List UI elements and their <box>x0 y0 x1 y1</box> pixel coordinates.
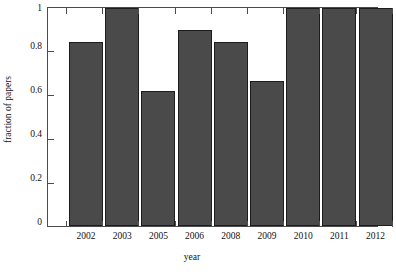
bar-2012 <box>359 8 393 226</box>
x-tick-mark-top-4 <box>211 8 212 14</box>
x-tick-mark-bottom-7 <box>319 221 320 227</box>
x-tick-label-2002: 2002 <box>66 231 106 242</box>
x-tick-mark-top-1 <box>102 8 103 14</box>
x-tick-label-2011: 2011 <box>319 231 359 242</box>
x-tick-mark-bottom-1 <box>102 221 103 227</box>
x-tick-mark-bottom-6 <box>283 221 284 227</box>
bar-2003 <box>105 8 139 226</box>
x-tick-label-2009: 2009 <box>247 231 287 242</box>
x-tick-mark-top-8 <box>356 8 357 14</box>
x-tick-label-2006: 2006 <box>175 231 215 242</box>
x-tick-mark-bottom-3 <box>175 221 176 227</box>
bar-2011 <box>322 8 356 226</box>
x-axis-title: year <box>0 252 384 263</box>
x-tick-mark-bottom-0 <box>66 221 67 227</box>
x-tick-label-2003: 2003 <box>102 231 142 242</box>
x-tick-mark-top-9 <box>392 8 393 14</box>
x-tick-mark-top-7 <box>319 8 320 14</box>
bar-2008 <box>214 42 248 226</box>
x-tick-mark-bottom-4 <box>211 221 212 227</box>
y-tick-label-0.2: 0.2 <box>0 173 42 183</box>
x-tick-label-2008: 2008 <box>211 231 251 242</box>
y-tick-label-0: 0 <box>0 217 42 227</box>
x-tick-mark-top-2 <box>138 8 139 14</box>
x-tick-mark-bottom-8 <box>356 221 357 227</box>
bar-2006 <box>178 30 212 226</box>
x-tick-mark-top-6 <box>283 8 284 14</box>
x-tick-mark-bottom-2 <box>138 221 139 227</box>
bar-2009 <box>250 81 284 226</box>
x-tick-label-2010: 2010 <box>283 231 323 242</box>
bar-2002 <box>69 42 103 226</box>
x-tick-mark-top-0 <box>66 8 67 14</box>
bar-series <box>48 8 377 226</box>
x-tick-label-2012: 2012 <box>356 231 396 242</box>
y-tick-label-1: 1 <box>0 3 42 13</box>
x-tick-mark-top-5 <box>247 8 248 14</box>
x-tick-label-2005: 2005 <box>138 231 178 242</box>
x-tick-mark-bottom-5 <box>247 221 248 227</box>
x-tick-mark-top-3 <box>175 8 176 14</box>
bar-2005 <box>141 91 175 226</box>
y-axis-title: fraction of papers <box>3 50 14 170</box>
x-tick-mark-bottom-9 <box>392 221 393 227</box>
bar-2010 <box>286 8 320 226</box>
